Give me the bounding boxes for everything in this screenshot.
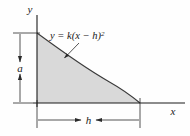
shaded-region (37, 33, 140, 103)
x-axis-label: x (170, 105, 176, 117)
dimension-label-h: h (86, 114, 92, 126)
equation-exponent: 2 (101, 30, 105, 38)
equation-base: y = k(x − h) (49, 30, 101, 42)
parabolic-area-figure: y x y = k(x − h)2 a h (0, 0, 190, 136)
y-axis-label: y (27, 3, 33, 15)
figure-container: y x y = k(x − h)2 a h (0, 0, 190, 136)
curve-equation-label: y = k(x − h)2 (49, 30, 105, 43)
equation-leader-line (65, 43, 80, 58)
dimension-label-a: a (17, 62, 23, 74)
